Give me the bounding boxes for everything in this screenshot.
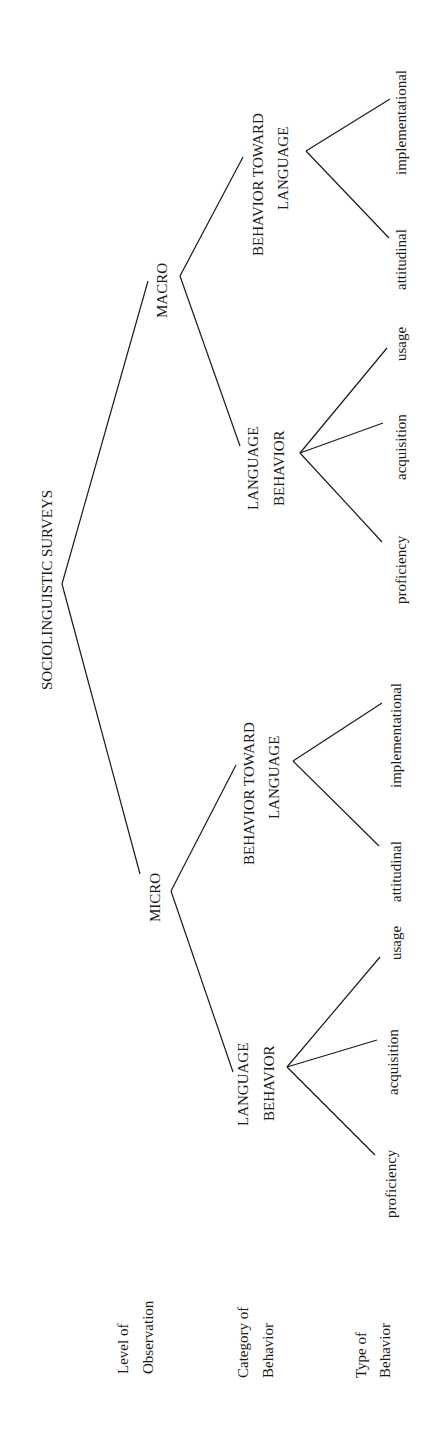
- row-label-category-line1: Category of: [235, 1307, 251, 1378]
- edge-micro-btl-attitudinal: [293, 761, 379, 846]
- macro-type-acquisition: acquisition: [393, 414, 409, 480]
- macro-type-proficiency: proficiency: [393, 535, 409, 604]
- row-label-type-line1: Type of: [353, 1332, 369, 1378]
- macro-type-usage: usage: [393, 327, 409, 361]
- tree-edges: [62, 99, 390, 1155]
- edge-macro-lb: [180, 276, 240, 446]
- row-label-category-line2: Behavior: [260, 1323, 276, 1378]
- micro-btl-label-line2: LANGUAGE: [266, 736, 282, 819]
- macro-type-attitudinal: attitudinal: [393, 229, 409, 290]
- macro-lb-label-line2: BEHAVIOR: [271, 430, 287, 506]
- edge-macro-btl-implementational: [306, 99, 390, 151]
- micro-btl-label-line1: BEHAVIOR TOWARD: [241, 722, 257, 865]
- edge-macro-btl-attitudinal: [306, 151, 389, 238]
- row-labels: Level of Observation Category of Behavio…: [115, 1300, 393, 1378]
- macro-type-implementational: implementational: [393, 70, 409, 175]
- micro-type-usage: usage: [388, 926, 404, 960]
- macro-lb-label-line1: LANGUAGE: [245, 427, 261, 510]
- sociolinguistic-surveys-tree-diagram: Level of Observation Category of Behavio…: [0, 0, 423, 1441]
- edge-micro-btl: [171, 765, 236, 891]
- macro-btl-label-line1: BEHAVIOR TOWARD: [250, 113, 266, 256]
- micro-type-acquisition: acquisition: [385, 1029, 401, 1095]
- micro-lb-label-line2: BEHAVIOR: [261, 1045, 277, 1121]
- edge-macro-btl: [180, 157, 243, 276]
- edge-micro-lb-usage: [287, 957, 380, 1067]
- row-label-level-line1: Level of: [115, 1324, 131, 1374]
- macro-node-label: MACRO: [154, 263, 170, 318]
- edge-micro-lb-acquisition: [287, 1040, 377, 1067]
- root-node-label: SOCIOLINGUISTIC SURVEYS: [39, 490, 55, 690]
- row-label-type-line2: Behavior: [377, 1323, 393, 1378]
- micro-node-label: MICRO: [147, 873, 163, 922]
- micro-type-implementational: implementational: [388, 683, 404, 788]
- row-label-level-line2: Observation: [140, 1300, 156, 1374]
- edge-root-macro: [62, 281, 148, 584]
- macro-btl-label-line2: LANGUAGE: [275, 127, 291, 210]
- edge-micro-lb: [171, 891, 233, 1072]
- edge-micro-lb-proficiency: [287, 1067, 375, 1155]
- micro-lb-label-line1: LANGUAGE: [235, 1043, 251, 1126]
- edge-micro-btl-implementational: [293, 703, 382, 761]
- edge-root-micro: [62, 584, 140, 874]
- micro-type-proficiency: proficiency: [383, 1149, 399, 1218]
- micro-type-attitudinal: attitudinal: [388, 841, 404, 902]
- edge-macro-lb-proficiency: [300, 453, 382, 542]
